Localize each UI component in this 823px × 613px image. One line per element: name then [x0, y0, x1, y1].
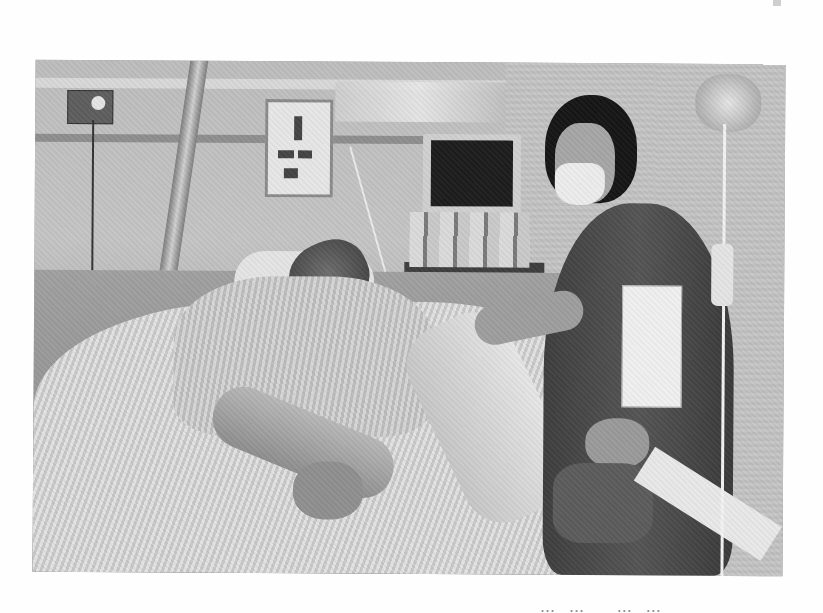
photo-caption: …… …… …… …… — [540, 598, 720, 613]
top-scan-mark — [773, 0, 781, 6]
film-grain — [32, 60, 785, 577]
hospital-room-photo — [32, 60, 785, 577]
